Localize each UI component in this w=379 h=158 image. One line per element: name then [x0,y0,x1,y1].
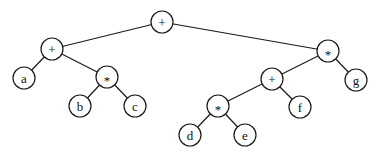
node-label: + [158,15,165,30]
node-label: e [242,128,248,143]
node-label: g [353,73,360,88]
tree-node: * [207,95,229,117]
tree-edge [162,22,328,51]
tree-edge [52,22,162,49]
tree-node: e [234,124,256,146]
tree-node: f [289,96,311,118]
expression-tree-diagram: ++a*bc*g+f*de [0,0,379,158]
node-label: * [215,102,222,117]
tree-node: * [96,66,118,88]
tree-node: b [69,95,91,117]
tree-node: * [317,40,339,62]
tree-nodes: ++a*bc*g+f*de [13,11,367,146]
node-label: * [325,47,332,62]
tree-node: + [151,11,173,33]
node-label: f [298,100,303,115]
tree-edges [24,22,356,135]
node-label: * [104,73,111,88]
node-label: d [187,128,194,143]
tree-node: a [13,67,35,89]
tree-node: c [124,95,146,117]
node-label: a [21,71,27,86]
node-label: + [268,72,275,87]
node-label: b [77,99,84,114]
tree-node: + [41,38,63,60]
node-label: + [48,42,55,57]
tree-canvas: ++a*bc*g+f*de [0,0,379,158]
tree-node: g [345,69,367,91]
tree-node: d [179,124,201,146]
tree-node: + [261,68,283,90]
node-label: c [132,99,138,114]
